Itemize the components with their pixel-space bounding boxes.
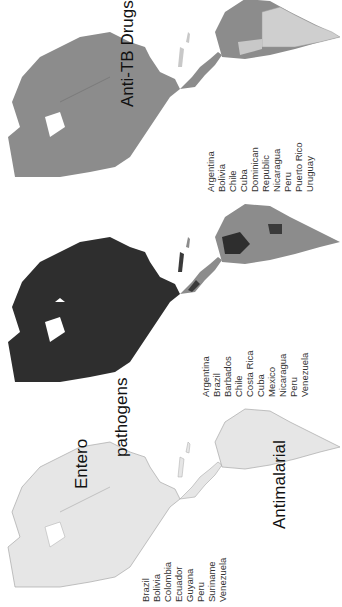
country-list-anti-tb: Argentina Bolivia Chile Cuba Dominican R… (205, 142, 315, 192)
country-item: Ecuador (173, 558, 184, 602)
country-item: Venezuela (217, 558, 228, 602)
country-item: Bolivia (151, 558, 162, 602)
country-item: Suriname (206, 558, 217, 602)
country-item: Republic (260, 142, 271, 192)
panel-enteropathogens: Entero pathogens Brazil Bolivia Colombia… (0, 407, 342, 607)
country-item: Bolivia (216, 142, 227, 192)
country-item: Dominican (249, 142, 260, 192)
country-item: Brazil (140, 558, 151, 602)
country-item: Puerto Rico (293, 142, 304, 192)
country-list-enteropathogens: Brazil Bolivia Colombia Ecuador Guyana P… (140, 558, 228, 602)
country-item: Argentina (205, 142, 216, 192)
country-list-antimalarial: Argentina Brazil Barbados Chile Costa Ri… (200, 351, 310, 397)
country-item: Argentina (200, 351, 211, 397)
panel-anti-tb-drugs: Anti-TB Drugs Argentina Bolivia Chile Cu… (0, 0, 342, 197)
country-item: Brazil (211, 351, 222, 397)
rotated-figure: Entero pathogens Brazil Bolivia Colombia… (0, 0, 342, 607)
country-item: Cuba (238, 142, 249, 192)
country-item: Cuba (255, 351, 266, 397)
country-item: Guyana (184, 558, 195, 602)
country-item: Chile (227, 142, 238, 192)
country-item: Venezuela (299, 351, 310, 397)
country-item: Peru (288, 351, 299, 397)
country-item: Peru (282, 142, 293, 192)
panel-antimalarial: Argentina Brazil Barbados Chile Costa Ri… (0, 202, 342, 402)
country-item: Mexico (266, 351, 277, 397)
panel-title-antimalarial: Antimalarial (270, 440, 290, 529)
country-item: Nicaragua (271, 142, 282, 192)
panel-title-entero: Entero (72, 439, 92, 489)
country-item: Colombia (162, 558, 173, 602)
panel-title-anti-tb: Anti-TB Drugs (118, 0, 138, 107)
country-item: Barbados (222, 351, 233, 397)
country-item: Chile (233, 351, 244, 397)
country-item: Nicaragua (277, 351, 288, 397)
country-item: Peru (195, 558, 206, 602)
country-item: Uruguay (304, 142, 315, 192)
country-item: Costa Rica (244, 351, 255, 397)
